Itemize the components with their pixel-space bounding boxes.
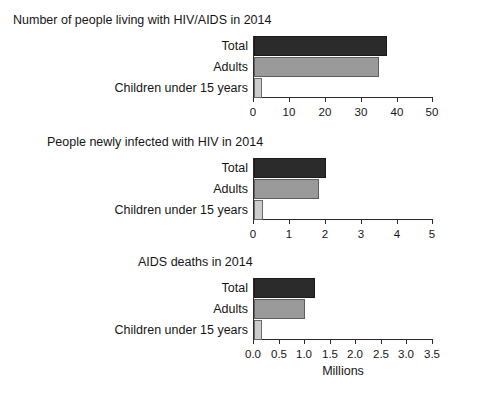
x-tick bbox=[432, 220, 433, 224]
x-tick bbox=[361, 220, 362, 224]
x-tick bbox=[279, 340, 280, 344]
x-tick-label: 0 bbox=[250, 106, 256, 118]
panel-3-plot-area: Total Adults Children under 15 years 0.0… bbox=[253, 278, 433, 340]
x-tick bbox=[289, 98, 290, 102]
category-label-children: Children under 15 years bbox=[115, 78, 248, 98]
x-tick-label: 10 bbox=[283, 106, 296, 118]
x-tick-label: 2.5 bbox=[373, 348, 389, 360]
bar-children bbox=[254, 320, 262, 340]
x-tick bbox=[432, 98, 433, 102]
x-tick bbox=[432, 340, 433, 344]
panel-1-plot-area: Total Adults Children under 15 years 0 1… bbox=[253, 36, 433, 98]
category-label-children: Children under 15 years bbox=[115, 200, 248, 220]
x-tick-label: 3.0 bbox=[398, 348, 414, 360]
x-tick-label: 2 bbox=[322, 228, 328, 240]
category-label-children: Children under 15 years bbox=[115, 320, 248, 340]
bar-adults bbox=[254, 179, 319, 199]
x-tick-label: 40 bbox=[391, 106, 404, 118]
x-tick-label: 2.0 bbox=[347, 348, 363, 360]
panel-1-title: Number of people living with HIV/AIDS in… bbox=[13, 12, 271, 28]
x-tick-label: 20 bbox=[319, 106, 332, 118]
x-tick-label: 1 bbox=[286, 228, 292, 240]
category-label-total: Total bbox=[222, 278, 248, 298]
panel-2-x-axis bbox=[253, 219, 433, 220]
x-tick bbox=[325, 220, 326, 224]
x-tick bbox=[355, 340, 356, 344]
panel-people-living-with-hiv: Number of people living with HIV/AIDS in… bbox=[0, 12, 478, 130]
x-tick bbox=[304, 340, 305, 344]
x-tick bbox=[406, 340, 407, 344]
category-label-total: Total bbox=[222, 36, 248, 56]
x-tick-label: 5 bbox=[429, 228, 435, 240]
bar-adults bbox=[254, 57, 379, 77]
x-tick-label: 1.0 bbox=[296, 348, 312, 360]
category-label-adults: Adults bbox=[213, 299, 248, 319]
category-label-adults: Adults bbox=[213, 57, 248, 77]
bar-children bbox=[254, 200, 263, 220]
x-tick-label: 3.5 bbox=[424, 348, 440, 360]
x-tick bbox=[325, 98, 326, 102]
x-tick bbox=[361, 98, 362, 102]
x-tick-label: 0.5 bbox=[271, 348, 287, 360]
category-label-total: Total bbox=[222, 158, 248, 178]
x-tick bbox=[253, 220, 254, 224]
x-tick-label: 30 bbox=[355, 106, 368, 118]
panel-1-x-axis bbox=[253, 97, 433, 98]
x-tick bbox=[253, 98, 254, 102]
x-tick-label: 3 bbox=[358, 228, 364, 240]
panel-3-title: AIDS deaths in 2014 bbox=[138, 254, 253, 270]
panel-people-newly-infected: People newly infected with HIV in 2014 T… bbox=[0, 134, 478, 252]
x-tick-label: 0 bbox=[250, 228, 256, 240]
category-label-adults: Adults bbox=[213, 179, 248, 199]
bar-adults bbox=[254, 299, 305, 319]
panel-aids-deaths: AIDS deaths in 2014 Total Adults Childre… bbox=[0, 254, 478, 394]
x-tick bbox=[289, 220, 290, 224]
x-tick-label: 50 bbox=[426, 106, 439, 118]
bar-total bbox=[254, 158, 326, 178]
panel-2-plot-area: Total Adults Children under 15 years 0 1… bbox=[253, 158, 433, 220]
bar-children bbox=[254, 78, 262, 98]
x-tick bbox=[397, 98, 398, 102]
hiv-aids-bar-chart-figure: Number of people living with HIV/AIDS in… bbox=[0, 0, 478, 407]
x-axis-label: Millions bbox=[253, 364, 433, 378]
x-tick bbox=[330, 340, 331, 344]
bar-total bbox=[254, 278, 315, 298]
x-tick bbox=[381, 340, 382, 344]
x-tick-label: 4 bbox=[394, 228, 400, 240]
panel-2-title: People newly infected with HIV in 2014 bbox=[47, 134, 263, 150]
bar-total bbox=[254, 36, 387, 56]
x-tick bbox=[397, 220, 398, 224]
x-tick bbox=[253, 340, 254, 344]
x-tick-label: 0.0 bbox=[245, 348, 261, 360]
x-tick-label: 1.5 bbox=[322, 348, 338, 360]
